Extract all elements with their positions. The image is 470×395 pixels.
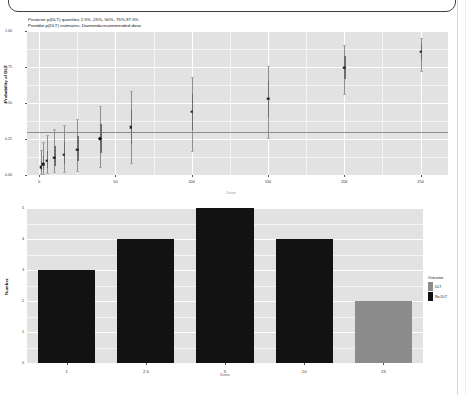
point-estimate bbox=[267, 97, 270, 100]
point-estimate bbox=[76, 148, 79, 151]
y-tick-mark-top bbox=[25, 175, 27, 176]
y-tick-label-bottom: 1 bbox=[22, 330, 24, 334]
chart-subtitle: Posterior p(DLT) quantiles 2.5% ,25%, 50… bbox=[28, 17, 358, 29]
y-tick-label-top: 0.75 bbox=[5, 65, 12, 69]
y-tick-label-bottom: 0 bbox=[22, 361, 24, 365]
point-estimate bbox=[129, 126, 132, 129]
bar bbox=[355, 301, 412, 363]
plot-panel-bottom bbox=[27, 208, 423, 363]
x-tick-label-top: 100 bbox=[188, 179, 195, 184]
bar bbox=[38, 270, 95, 363]
x-tick-label-top: 0 bbox=[38, 179, 40, 184]
x-axis-label-top: Dose bbox=[226, 190, 235, 195]
y-tick-label-top: 0.25 bbox=[5, 137, 12, 141]
x-tick-label-top: 250 bbox=[417, 179, 424, 184]
point-estimate bbox=[190, 110, 193, 113]
y-axis-label-top: Probability of DLT bbox=[3, 66, 8, 103]
posterior-dlt-chart: Posterior p(DLT) quantiles 2.5% ,25%, 50… bbox=[0, 14, 458, 200]
x-tick-mark-bottom bbox=[146, 363, 147, 365]
x-tick-label-top: 50 bbox=[113, 179, 117, 184]
y-tick-mark-top bbox=[25, 139, 27, 140]
error-bar-cap bbox=[63, 172, 66, 173]
error-bar-cap bbox=[63, 125, 66, 126]
recommended-dose-diamond bbox=[98, 137, 103, 142]
subtitle-line-2: Pointdot p(DLT) estimates; Diamond=recom… bbox=[28, 23, 358, 29]
legend-title: Outcome bbox=[428, 276, 468, 280]
error-bar-cap bbox=[191, 77, 194, 78]
error-bar-cap bbox=[76, 171, 79, 172]
x-tick-mark-top bbox=[39, 175, 40, 177]
y-tick-label-top: 0.00 bbox=[5, 173, 12, 177]
window-panel-frame bbox=[8, 0, 456, 12]
error-bar-cap bbox=[46, 135, 49, 136]
point-estimate bbox=[46, 160, 49, 163]
error-bar-cap bbox=[46, 173, 49, 174]
x-tick-label-bottom: 2.5 bbox=[143, 369, 149, 374]
error-bar-cap bbox=[53, 129, 56, 130]
dose-outcome-chart: Number 012345 12.551025 Dose Outcome DLT… bbox=[0, 200, 470, 395]
bar bbox=[196, 208, 253, 363]
gridline-vertical-minor bbox=[230, 31, 231, 175]
y-tick-label-top: 0.50 bbox=[5, 101, 12, 105]
point-estimate bbox=[419, 51, 422, 54]
legend-swatch bbox=[428, 282, 433, 291]
gridline-horizontal bbox=[27, 175, 448, 176]
y-tick-label-bottom: 5 bbox=[22, 206, 24, 210]
y-tick-mark-top bbox=[25, 31, 27, 32]
legend-items: DLTNo DLT bbox=[428, 282, 468, 301]
legend-item[interactable]: No DLT bbox=[428, 292, 468, 301]
x-tick-label-top: 150 bbox=[265, 179, 272, 184]
gridline-horizontal-minor bbox=[27, 157, 448, 158]
x-axis-label-bottom: Dose bbox=[220, 372, 229, 377]
error-bar-cap bbox=[343, 94, 346, 95]
legend-swatch bbox=[428, 292, 433, 301]
bar bbox=[276, 239, 333, 363]
gridline-horizontal-minor bbox=[27, 121, 448, 122]
gridline-vertical-minor bbox=[154, 31, 155, 175]
y-tick-label-bottom: 2 bbox=[22, 299, 24, 303]
point-estimate bbox=[62, 153, 65, 156]
error-bar-cap bbox=[420, 71, 423, 72]
x-tick-label-top: 200 bbox=[341, 179, 348, 184]
error-bar-cap bbox=[99, 167, 102, 168]
error-bar-cap bbox=[53, 172, 56, 173]
x-tick-label-bottom: 25 bbox=[381, 369, 386, 374]
x-tick-mark-top bbox=[115, 175, 116, 177]
point-estimate bbox=[343, 66, 346, 69]
gridline-vertical-minor bbox=[306, 31, 307, 175]
bar bbox=[117, 239, 174, 363]
gridline-horizontal bbox=[27, 67, 448, 68]
y-tick-label-top: 1.00 bbox=[5, 29, 12, 33]
error-bar-cap bbox=[130, 91, 133, 92]
legend-label: DLT bbox=[435, 285, 442, 289]
error-bar-cap bbox=[42, 142, 45, 143]
x-tick-mark-top bbox=[344, 175, 345, 177]
x-tick-mark-top bbox=[192, 175, 193, 177]
gridline-horizontal bbox=[27, 139, 448, 140]
legend: Outcome DLTNo DLT bbox=[428, 276, 468, 302]
x-tick-mark-bottom bbox=[304, 363, 305, 365]
y-tick-mark-top bbox=[25, 67, 27, 68]
error-bar-cap bbox=[267, 138, 270, 139]
point-estimate bbox=[53, 156, 56, 159]
plot-panel-top bbox=[27, 31, 448, 175]
y-tick-label-bottom: 3 bbox=[22, 268, 24, 272]
x-tick-label-bottom: 1 bbox=[65, 369, 67, 374]
y-tick-mark-top bbox=[25, 103, 27, 104]
x-tick-mark-bottom bbox=[383, 363, 384, 365]
legend-item[interactable]: DLT bbox=[428, 282, 468, 291]
reference-line bbox=[27, 132, 448, 133]
gridline-horizontal-minor bbox=[27, 85, 448, 86]
error-bar-cap bbox=[343, 45, 346, 46]
point-estimate bbox=[39, 166, 42, 169]
y-tick-label-bottom: 4 bbox=[22, 237, 24, 241]
y-axis-label-bottom: Number bbox=[4, 278, 9, 295]
gridline-horizontal bbox=[27, 103, 448, 104]
error-bar-cap bbox=[420, 38, 423, 39]
error-bar-cap bbox=[42, 174, 45, 175]
x-tick-mark-top bbox=[268, 175, 269, 177]
point-estimate bbox=[42, 163, 45, 166]
x-tick-mark-top bbox=[421, 175, 422, 177]
error-bar-cap bbox=[99, 106, 102, 107]
error-bar-cap bbox=[76, 119, 79, 120]
